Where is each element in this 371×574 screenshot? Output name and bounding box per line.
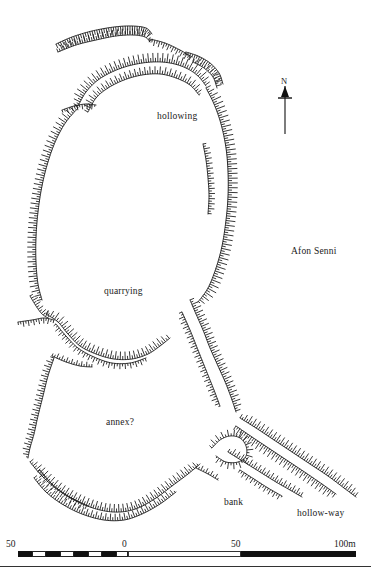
hachure-tick <box>94 95 97 97</box>
hachure-tick <box>225 225 234 226</box>
earthwork-crestline <box>240 418 356 497</box>
hachure-tick <box>220 253 229 255</box>
hachure-tick <box>141 59 142 63</box>
hachure-tick <box>226 220 235 221</box>
hachure-tick <box>223 241 227 242</box>
hachure-tick <box>105 349 107 357</box>
hachure-tick <box>71 111 73 113</box>
hachure-tick <box>230 394 233 395</box>
hachure-tick <box>256 466 258 469</box>
hachure-tick <box>234 430 235 436</box>
hachure-tick <box>37 305 39 307</box>
hachure-tick <box>189 341 195 343</box>
hachure-tick <box>94 350 95 353</box>
hachure-tick <box>210 471 213 475</box>
hachure-tick <box>76 340 78 343</box>
hachure-tick <box>110 33 111 37</box>
hachure-tick <box>235 408 238 409</box>
hachure-tick <box>174 480 176 483</box>
hachure-tick <box>76 36 77 40</box>
hachure-tick <box>66 338 68 340</box>
hachure-tick <box>109 69 111 73</box>
hachure-tick <box>272 492 275 497</box>
hachure-tick <box>219 115 228 118</box>
earthwork-crestline <box>198 88 228 302</box>
earthwork-north-inner-rampart-inner <box>84 66 201 112</box>
hachure-tick <box>64 359 65 361</box>
hachure-tick <box>201 298 203 300</box>
hachure-tick <box>170 483 172 486</box>
north-arrow-letter: N <box>281 76 287 86</box>
hachure-tick <box>234 453 236 456</box>
hachure-tick <box>189 81 191 84</box>
hachure-tick <box>114 363 115 368</box>
hachure-tick <box>138 361 139 364</box>
hachure-tick <box>187 336 193 338</box>
hachure-tick <box>249 460 252 466</box>
hachure-tick <box>123 63 124 67</box>
hachure-tick <box>38 306 43 309</box>
hachure-tick <box>245 474 246 476</box>
hachure-tick <box>138 504 139 507</box>
hachure-tick <box>78 339 83 345</box>
hachure-tick <box>148 53 149 62</box>
hachure-tick <box>135 501 138 508</box>
hachure-tick <box>213 101 216 103</box>
hachure-tick <box>137 354 138 357</box>
hachure-tick <box>91 356 92 358</box>
hachure-tick <box>70 505 72 508</box>
hachure-tick <box>36 465 42 470</box>
hachure-tick <box>106 362 107 365</box>
hachure-tick <box>179 317 184 319</box>
hachure-tick <box>211 66 213 68</box>
hachure-tick <box>233 403 236 404</box>
hachure-tick <box>141 27 142 31</box>
hachure-tick <box>323 486 325 489</box>
hachure-tick <box>27 434 34 436</box>
hachure-tick <box>96 36 97 40</box>
hachure-tick <box>222 246 226 247</box>
hachure-tick <box>100 502 102 510</box>
hachure-tick <box>44 365 51 367</box>
hachure-tick <box>140 360 142 365</box>
hachure-tick <box>171 47 174 52</box>
hachure-tick <box>308 476 310 479</box>
hachure-tick <box>122 517 123 520</box>
hachure-tick <box>222 128 226 129</box>
hachure-tick <box>206 384 212 386</box>
hachure-tick <box>183 74 186 81</box>
hachure-tick <box>89 348 90 351</box>
hachure-tick <box>49 149 52 150</box>
hachure-tick <box>272 491 273 493</box>
hachure-tick <box>88 513 89 516</box>
hachure-tick <box>272 452 274 455</box>
hachure-tick <box>86 509 88 516</box>
hachure-tick <box>229 389 232 390</box>
hachure-tick <box>62 356 64 361</box>
hachure-tick <box>218 262 227 265</box>
hachure-tick <box>57 498 59 501</box>
hachure-tick <box>91 500 94 508</box>
hachure-tick <box>47 369 50 370</box>
hachure-tick <box>230 451 231 453</box>
hachure-tick <box>48 316 49 318</box>
hachure-tick <box>129 351 130 359</box>
hachure-tick <box>280 457 282 460</box>
hachure-tick <box>187 55 189 58</box>
hachure-tick <box>204 332 207 333</box>
hachure-tick <box>34 183 42 185</box>
hachure-tick <box>195 61 196 63</box>
hachure-tick <box>57 49 58 52</box>
hachure-tick <box>85 346 87 349</box>
hachure-tick <box>136 513 137 516</box>
hachure-tick <box>327 489 329 492</box>
hachure-tick <box>181 475 183 478</box>
hachure-tick <box>119 78 120 81</box>
hachure-tick <box>166 338 168 340</box>
hachure-tick <box>71 359 72 364</box>
hachure-tick <box>274 437 276 440</box>
hachure-tick <box>99 29 100 33</box>
earthwork-crestline <box>228 452 302 497</box>
hachure-tick <box>33 188 41 190</box>
hachure-tick <box>219 257 228 260</box>
